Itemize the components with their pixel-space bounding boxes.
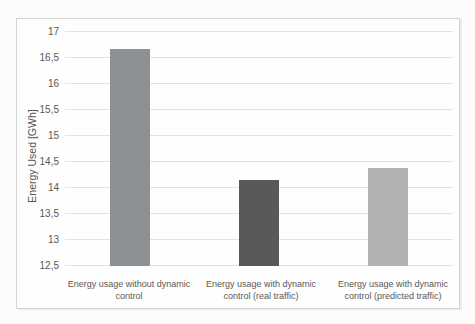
scanned-page: Energy Used [GWh] 12,51313,51414,51515,5… [0,0,475,324]
y-tick-label: 17 [17,26,59,38]
category-label: Energy usage with dynamic control (real … [195,278,327,302]
category-label: Energy usage with dynamic control (predi… [327,278,459,302]
y-tick-label: 15,5 [17,104,59,116]
bar-chart: Energy Used [GWh] 12,51313,51414,51515,5… [16,18,460,309]
y-tick-label: 13,5 [17,208,59,220]
bar [239,180,279,266]
gridline [65,31,453,32]
y-tick-label: 12,5 [17,260,59,272]
x-axis-category-labels: Energy usage without dynamic controlEner… [63,278,459,302]
y-tick-label: 15 [17,130,59,142]
plot-area [65,32,453,266]
y-tick-label: 14 [17,182,59,194]
bar [368,168,408,266]
category-label: Energy usage without dynamic control [63,278,195,302]
bar [110,49,150,266]
y-tick-label: 16,5 [17,52,59,64]
y-tick-label: 14,5 [17,156,59,168]
y-tick-label: 13 [17,234,59,246]
y-tick-label: 16 [17,78,59,90]
